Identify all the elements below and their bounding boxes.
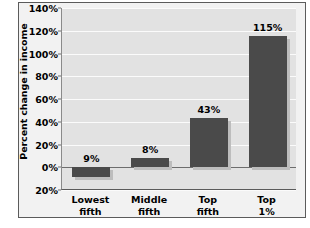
y-tick-label: 100% — [12, 48, 58, 59]
bar-value-label: 43% — [198, 104, 221, 115]
x-label-line: fifth — [131, 206, 167, 218]
bar[interactable] — [72, 167, 110, 177]
x-label-line: Middle — [131, 194, 167, 206]
bar[interactable] — [131, 158, 169, 167]
y-tick-label: 0% — [12, 162, 58, 173]
bar[interactable] — [190, 118, 228, 167]
x-axis-category-label: Top1% — [257, 194, 276, 217]
bar-value-label: 115% — [253, 22, 282, 33]
bar[interactable] — [249, 36, 287, 167]
plot-area: 9%8%43%115% — [61, 8, 296, 190]
y-tick-mark — [58, 99, 61, 100]
x-label-line: fifth — [71, 206, 109, 218]
bar-chart-figure: Percent change in income 9%8%43%115% 140… — [0, 0, 310, 228]
y-tick-mark — [58, 121, 61, 122]
y-tick-label: 20% — [12, 139, 58, 150]
x-axis-category-label: Topfifth — [197, 194, 219, 217]
y-tick-label: 20% — [12, 185, 58, 196]
plot-inner: 9%8%43%115% — [62, 8, 296, 189]
y-tick-mark — [58, 30, 61, 31]
x-axis-category-label: Lowestfifth — [71, 194, 109, 217]
y-tick-mark — [58, 8, 61, 9]
x-label-line: Top — [257, 194, 276, 206]
x-label-line: 1% — [257, 206, 276, 218]
x-axis-category-label: Middlefifth — [131, 194, 167, 217]
bar-value-label: 9% — [83, 153, 99, 164]
y-tick-label: 120% — [12, 25, 58, 36]
y-tick-mark — [58, 53, 61, 54]
y-tick-label: 60% — [12, 94, 58, 105]
y-tick-label: 80% — [12, 71, 58, 82]
x-label-line: fifth — [197, 206, 219, 218]
y-tick-mark — [58, 144, 61, 145]
y-tick-mark — [58, 190, 61, 191]
gridline — [62, 190, 296, 191]
y-tick-label: 140% — [12, 3, 58, 14]
y-tick-mark — [58, 167, 61, 168]
bar-value-label: 8% — [142, 144, 158, 155]
gridline — [62, 8, 296, 9]
x-label-line: Top — [197, 194, 219, 206]
y-tick-mark — [58, 76, 61, 77]
y-tick-label: 40% — [12, 116, 58, 127]
x-label-line: Lowest — [71, 194, 109, 206]
